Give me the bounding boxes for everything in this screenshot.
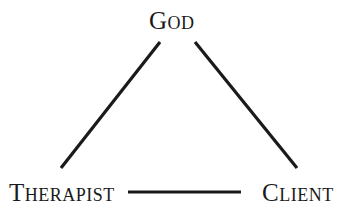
triangle-diagram: God Therapist Client <box>0 0 346 218</box>
edge-god-therapist <box>61 42 160 168</box>
node-therapist-label: Therapist <box>9 180 115 205</box>
node-client-label: Client <box>262 180 334 205</box>
edge-god-client <box>195 42 297 168</box>
node-god-label: God <box>149 8 195 33</box>
